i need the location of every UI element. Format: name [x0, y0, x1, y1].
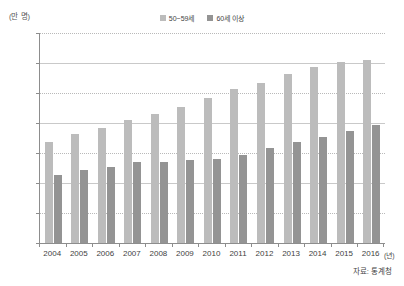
legend-label-series2: 60세 이상 — [216, 13, 244, 23]
x-tick-mark — [251, 243, 252, 247]
bar[interactable] — [319, 137, 327, 243]
bar-group — [358, 33, 385, 243]
bar[interactable] — [71, 134, 79, 243]
bar[interactable] — [107, 167, 115, 243]
legend-swatch-series2 — [207, 15, 213, 21]
bar[interactable] — [177, 107, 185, 243]
x-tick-mark — [331, 243, 332, 247]
x-tick-mark — [383, 243, 384, 247]
x-tick-label-2016: 2016 — [357, 249, 384, 258]
x-tick-label-2010: 2010 — [198, 249, 225, 258]
legend-label-series1: 50~59세 — [169, 13, 195, 23]
legend-swatch-series1 — [160, 15, 166, 21]
legend-item-series2[interactable]: 60세 이상 — [207, 13, 244, 23]
legend-item-series1[interactable]: 50~59세 — [160, 13, 195, 23]
bar[interactable] — [346, 131, 354, 243]
x-tick-label-2011: 2011 — [225, 249, 252, 258]
bar-group — [120, 33, 147, 243]
x-tick-label-2006: 2006 — [92, 249, 119, 258]
x-tick-mark — [304, 243, 305, 247]
x-tick-mark — [145, 243, 146, 247]
bar[interactable] — [284, 74, 292, 243]
bar[interactable] — [80, 170, 88, 243]
bar[interactable] — [186, 160, 194, 243]
x-tick-mark — [66, 243, 67, 247]
bar[interactable] — [337, 62, 345, 243]
x-tick-label-2005: 2005 — [66, 249, 93, 258]
x-tick-label-2013: 2013 — [278, 249, 305, 258]
bars-layer — [40, 33, 385, 243]
x-tick-label-2014: 2014 — [304, 249, 331, 258]
bar[interactable] — [310, 67, 318, 243]
x-tick-mark — [39, 243, 40, 247]
x-tick-mark — [225, 243, 226, 247]
bar-group — [67, 33, 94, 243]
chart-figure: (만 명) 50~59세 60세 이상 70060050040030020010… — [0, 0, 404, 286]
bar-group — [279, 33, 306, 243]
bar[interactable] — [133, 162, 141, 243]
x-tick-mark — [278, 243, 279, 247]
chart-legend: 50~59세 60세 이상 — [0, 13, 404, 23]
x-tick-label-2008: 2008 — [145, 249, 172, 258]
bar[interactable] — [54, 175, 62, 243]
x-tick-mark — [198, 243, 199, 247]
x-tick-label-2015: 2015 — [331, 249, 358, 258]
bar[interactable] — [160, 162, 168, 243]
x-tick-label-2012: 2012 — [251, 249, 278, 258]
bar[interactable] — [124, 120, 132, 243]
x-axis-labels: 2004200520062007200820092010201120122013… — [39, 249, 384, 258]
bar-group — [93, 33, 120, 243]
bar-group — [199, 33, 226, 243]
bar[interactable] — [45, 142, 53, 243]
bar[interactable] — [204, 98, 212, 243]
bar-group — [173, 33, 200, 243]
plot-area: 7006005004003002001000 — [39, 33, 385, 244]
x-tick-mark — [357, 243, 358, 247]
bar[interactable] — [257, 83, 265, 244]
x-tick-mark — [92, 243, 93, 247]
bar[interactable] — [372, 125, 380, 244]
x-tick-mark — [119, 243, 120, 247]
x-tick-mark — [172, 243, 173, 247]
bar[interactable] — [293, 142, 301, 243]
bar[interactable] — [230, 89, 238, 243]
bar-group — [40, 33, 67, 243]
bar[interactable] — [213, 159, 221, 243]
bar-group — [305, 33, 332, 243]
x-tick-label-2007: 2007 — [119, 249, 146, 258]
bar[interactable] — [239, 155, 247, 243]
x-tick-label-2009: 2009 — [172, 249, 199, 258]
source-note: 자료: 통계청 — [353, 265, 392, 276]
bar-group — [252, 33, 279, 243]
bar[interactable] — [363, 60, 371, 243]
bar[interactable] — [266, 148, 274, 243]
bar-group — [332, 33, 359, 243]
bar-group — [226, 33, 253, 243]
bar[interactable] — [151, 114, 159, 243]
x-axis-unit-label: (년) — [384, 250, 395, 260]
x-tick-label-2004: 2004 — [39, 249, 66, 258]
bar[interactable] — [98, 128, 106, 244]
bar-group — [146, 33, 173, 243]
